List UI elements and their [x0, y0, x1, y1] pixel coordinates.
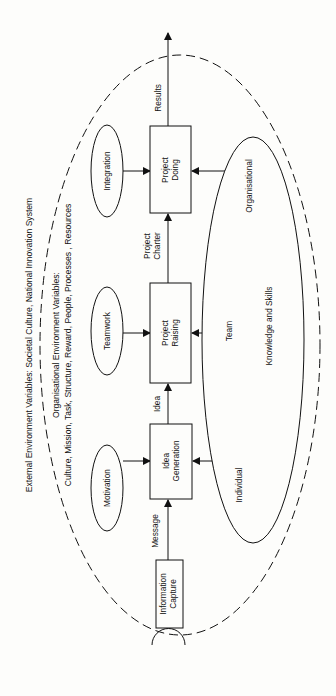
integration-label: Integration	[102, 151, 112, 191]
organisational-environment-variables: Culture, Mission, Task, Structure, Rewar…	[63, 204, 73, 487]
project-charter-label-2: Charter	[152, 232, 162, 260]
team-level-label: Team	[224, 321, 234, 341]
information-capture-label-1: Information	[158, 573, 168, 615]
project-charter-label-1: Project	[142, 232, 152, 259]
information-capture-label-2: Capture	[168, 579, 178, 609]
teamwork-label: Teamwork	[102, 311, 112, 350]
external-environment-label: External Environment Variables: Societal…	[24, 198, 34, 493]
message-label: Message	[150, 514, 160, 548]
project-raising-label-2: Raising	[170, 319, 180, 347]
organisational-level-label: Organisational	[244, 159, 254, 213]
project-doing-label-1: Project	[160, 156, 170, 183]
individual-level-label: Individual	[234, 467, 244, 502]
results-label: Results	[153, 84, 163, 112]
motivation-label: Motivation	[102, 469, 112, 507]
organisational-environment-heading: Organisational Environment Variables:	[51, 272, 61, 418]
idea-generation-label-2: Generation	[171, 440, 181, 481]
project-doing-label-2: Doing	[170, 159, 180, 181]
idea-label: Idea	[152, 396, 162, 413]
innovation-process-diagram: External Environment Variables: Societal…	[0, 0, 336, 696]
idea-generation-label-1: Idea	[161, 453, 171, 470]
knowledge-skills-label: Knowledge and Skills	[264, 287, 274, 366]
project-raising-label-1: Project	[160, 319, 170, 346]
